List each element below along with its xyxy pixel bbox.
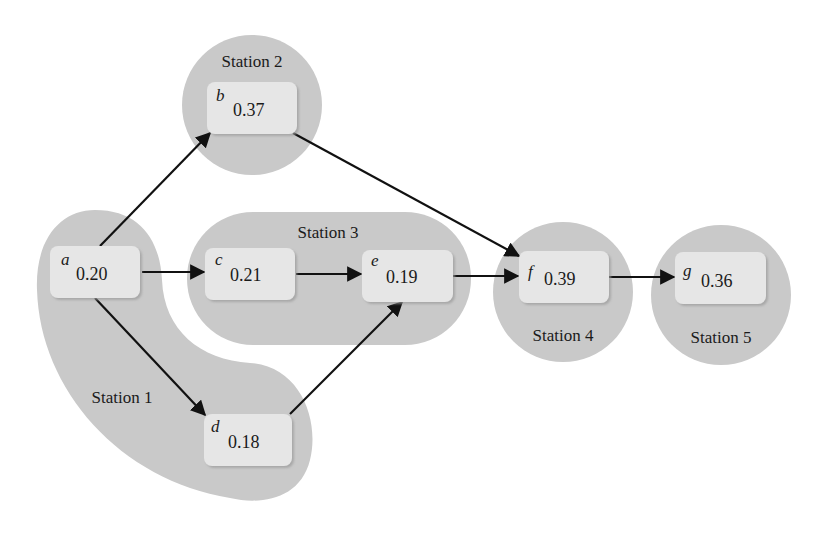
node-f: f 0.39 — [519, 251, 609, 303]
node-d: d 0.18 — [204, 414, 292, 466]
station-label-2: Station 2 — [222, 52, 283, 71]
node-a: a 0.20 — [50, 246, 140, 298]
node-letter: a — [61, 250, 70, 269]
node-value: 0.37 — [233, 100, 265, 120]
node-e: e 0.19 — [362, 250, 453, 302]
node-b: b 0.37 — [207, 82, 297, 134]
node-value: 0.20 — [76, 264, 108, 284]
edge-a-b — [100, 133, 210, 246]
node-value: 0.18 — [228, 432, 260, 452]
station-label-5: Station 5 — [691, 328, 752, 347]
node-letter: d — [211, 417, 220, 436]
node-letter: b — [216, 86, 225, 105]
node-value: 0.39 — [544, 269, 576, 289]
station-label-4: Station 4 — [533, 326, 594, 345]
node-letter: g — [683, 261, 692, 280]
precedence-diagram: Station 2 Station 1 Station 3 Station 4 … — [0, 0, 838, 536]
node-letter: e — [371, 251, 379, 270]
station-label-3: Station 3 — [298, 223, 359, 242]
node-value: 0.21 — [230, 265, 262, 285]
node-letter: c — [215, 250, 223, 269]
node-c: c 0.21 — [205, 248, 295, 300]
station-label-1: Station 1 — [92, 388, 153, 407]
node-value: 0.36 — [701, 271, 733, 291]
node-value: 0.19 — [386, 267, 418, 287]
node-g: g 0.36 — [675, 252, 766, 304]
